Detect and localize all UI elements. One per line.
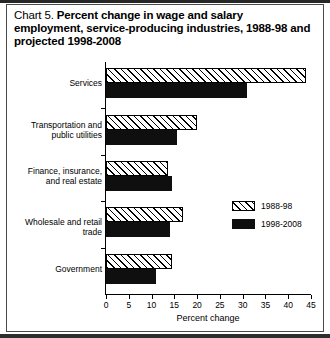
x-tick-label: 20	[192, 300, 201, 310]
x-tick-label: 45	[306, 300, 315, 310]
legend-swatch-solid-icon	[232, 219, 255, 229]
x-tick	[265, 295, 266, 299]
chart-legend: 1988-98 1998-2008	[232, 199, 302, 235]
category-label: Finance, insurance, and real estate	[14, 166, 102, 186]
bar	[106, 161, 168, 176]
bar	[106, 68, 306, 83]
bar	[106, 254, 172, 269]
x-tick	[288, 295, 289, 299]
x-tick-label: 15	[170, 300, 179, 310]
legend-swatch-hatched-icon	[232, 201, 255, 211]
chart-title-prefix: Chart 5.	[14, 9, 54, 21]
legend-label: 1988-98	[261, 201, 292, 211]
x-tick-label: 10	[147, 300, 156, 310]
x-axis-line	[105, 294, 311, 295]
y-tick	[101, 201, 105, 202]
x-tick	[243, 295, 244, 299]
bar	[106, 83, 247, 98]
bar	[106, 130, 177, 145]
x-tick	[311, 295, 312, 299]
category-label: Services	[14, 78, 102, 88]
category-label: Transportation and public utilities	[14, 120, 102, 140]
chart-title: Chart 5. Percent change in wage and sala…	[14, 9, 314, 49]
x-tick-label: 30	[238, 300, 247, 310]
scan-edge-bottom	[0, 334, 330, 338]
y-tick	[101, 155, 105, 156]
bar	[106, 207, 183, 222]
bar	[106, 176, 172, 191]
bar	[106, 115, 197, 130]
legend-item: 1998-2008	[232, 217, 302, 231]
legend-label: 1998-2008	[261, 219, 302, 229]
x-tick	[174, 295, 175, 299]
scan-edge-top	[0, 0, 330, 3]
x-tick	[220, 295, 221, 299]
x-tick-label: 40	[283, 300, 292, 310]
category-label: Government	[14, 264, 102, 274]
x-tick-label: 25	[215, 300, 224, 310]
x-tick-label: 5	[126, 300, 131, 310]
x-tick	[152, 295, 153, 299]
bar	[106, 222, 170, 237]
x-tick-label: 0	[104, 300, 109, 310]
y-tick	[101, 108, 105, 109]
x-tick-label: 35	[261, 300, 270, 310]
chart-figure: Chart 5. Percent change in wage and sala…	[0, 0, 330, 338]
bar	[106, 269, 156, 284]
x-tick	[129, 295, 130, 299]
legend-item: 1988-98	[232, 199, 302, 213]
y-tick	[101, 248, 105, 249]
plot-area: 051015202530354045	[105, 62, 311, 294]
x-tick	[197, 295, 198, 299]
x-axis-title: Percent change	[105, 313, 311, 323]
chart-title-main: Percent change in wage and salary employ…	[14, 9, 310, 47]
x-tick	[106, 295, 107, 299]
category-labels: ServicesTransportation and public utilit…	[14, 62, 102, 294]
category-label: Wholesale and retail trade	[14, 217, 102, 237]
